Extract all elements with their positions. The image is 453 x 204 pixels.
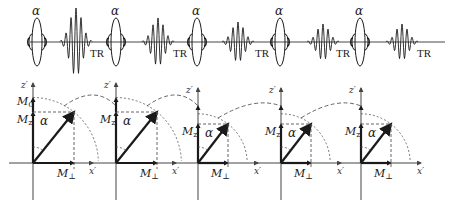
flip-angle-arc — [361, 147, 371, 150]
z-prime-label: z′ — [186, 86, 193, 95]
flip-angle-label: α — [40, 115, 48, 127]
z-prime-label: z′ — [104, 81, 111, 90]
mperp-label: M⊥ — [211, 168, 230, 181]
flip-angle-arc — [116, 147, 126, 151]
flip-angle-arc — [198, 147, 208, 150]
flip-angle-arc — [33, 147, 43, 151]
flip-angle-label: α — [123, 115, 131, 127]
z-prime-label: z′ — [269, 86, 276, 95]
flip-angle-label: α — [368, 127, 376, 139]
rf-flip-angle-label: α — [111, 5, 119, 17]
z-prime-label: z′ — [349, 86, 356, 95]
x-prime-label: x′ — [89, 167, 96, 176]
recovery-dashed-curve — [147, 95, 198, 106]
m0-arrowhead — [196, 105, 201, 110]
x-prime-label: x′ — [337, 167, 344, 176]
rf-flip-angle-label: α — [355, 5, 363, 17]
m0-arrowhead — [279, 105, 284, 110]
mperp-label: M⊥ — [294, 168, 313, 181]
recovery-dashed-curve — [218, 103, 281, 118]
echo-signal — [307, 24, 339, 59]
x-prime-label: x′ — [254, 167, 261, 176]
mri-steady-state-diagram: αααααTRTRTRTRTRz′x′αMzM⊥M0z′x′αMzM⊥z′x′α… — [0, 0, 453, 204]
echo-signal — [60, 8, 92, 73]
mz-label: Mz — [265, 126, 280, 139]
x-prime-label: x′ — [172, 167, 179, 176]
flip-angle-label: α — [205, 127, 213, 139]
mz-label: Mz — [182, 126, 197, 139]
flip-angle-label: α — [288, 127, 296, 139]
tr-label: TR — [336, 48, 350, 59]
echo-signal — [386, 24, 418, 59]
flip-angle-arc — [281, 147, 291, 150]
recovery-dashed-curve — [301, 103, 361, 118]
mperp-label: M⊥ — [374, 168, 393, 181]
echo-signal — [142, 18, 174, 64]
echo-signal — [222, 22, 254, 60]
z-prime-label: z′ — [21, 81, 28, 90]
rf-flip-angle-label: α — [275, 5, 283, 17]
tr-label: TR — [255, 48, 269, 59]
x-prime-label: x′ — [417, 167, 424, 176]
rf-flip-angle-label: α — [192, 5, 200, 17]
mperp-label: M⊥ — [57, 168, 76, 181]
mz-label: Mz — [100, 114, 115, 127]
rf-flip-angle-label: α — [32, 5, 40, 17]
tr-label: TR — [417, 48, 431, 59]
tr-label: TR — [173, 48, 187, 59]
recovery-dashed-curve — [64, 95, 116, 106]
mperp-label: M⊥ — [140, 168, 159, 181]
mz-label: Mz — [345, 126, 360, 139]
mz-label: Mz — [17, 114, 32, 127]
tr-label: TR — [90, 48, 104, 59]
m0-label: M0 — [17, 96, 33, 109]
